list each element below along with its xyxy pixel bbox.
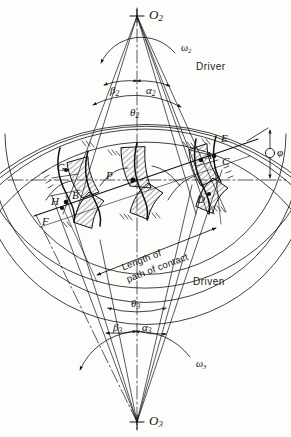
omega2-arrow [101,37,175,63]
driven-dashdot-radial [36,215,137,422]
driven-tooth-center [130,183,163,219]
point-label-B: B [72,190,79,201]
point-marker-P [130,177,135,182]
point-label-F: F [42,216,49,227]
point-label-E: E [221,133,228,144]
point-label-A: A [205,150,212,161]
point-marker-A [199,158,204,163]
beta2-arrow [104,81,137,85]
point-marker-H [60,206,64,210]
omega3-arrow [80,331,190,370]
beta3-label: β3 [113,322,122,335]
point-label-H: H [51,196,59,207]
gear-contact-diagram: O2 O3 ω2 ω3 Driver Driven β2 α2 θ2 θ3 β3… [0,0,291,437]
point-label-G: G [57,162,65,173]
driven-label: Driven [193,277,225,287]
beta2-label: β2 [110,85,119,98]
theta2-label: θ2 [130,107,139,120]
point-marker-D [207,192,211,196]
point-label-D: D [197,194,205,205]
point-marker-B [64,200,69,205]
omega3-label: ω3 [196,359,206,371]
point-label-P: P [106,170,113,181]
driver-tooth-center [121,147,151,188]
origin-label-o3: O3 [149,414,163,429]
alpha3-label: α3 [142,322,152,335]
omega2-label: ω2 [181,43,191,55]
origin-label-o2: O2 [149,8,163,23]
theta3-label: θ3 [131,298,140,311]
pressure-angle-label: φ [277,147,283,158]
point-label-C: C [222,156,229,167]
driver-label: Driver [196,62,226,72]
alpha2-label: α2 [146,85,156,98]
